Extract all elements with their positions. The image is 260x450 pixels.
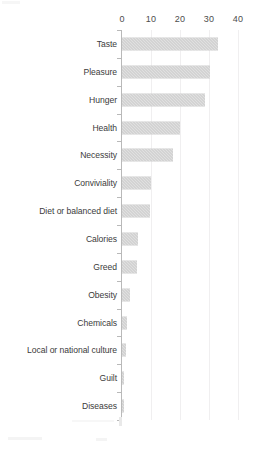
scan-artifact-b [96, 438, 107, 441]
y-axis-tick [117, 364, 121, 365]
y-axis-tick [117, 281, 121, 282]
category-label: Chemicals [77, 317, 117, 328]
bar [122, 232, 138, 245]
bar [122, 149, 173, 162]
bar [122, 344, 126, 357]
bar [122, 177, 151, 190]
y-axis-tick [117, 197, 121, 198]
category-label: Necessity [80, 150, 117, 161]
y-axis-tick [117, 30, 121, 31]
bar-row: Obesity [0, 281, 260, 309]
category-label: Pleasure [83, 66, 117, 77]
category-label: Diet or balanced diet [39, 206, 117, 217]
y-axis-tick [117, 114, 121, 115]
x-axis-tick-label: 20 [175, 13, 185, 25]
scan-artifact-d [119, 417, 122, 426]
bar-row: Health [0, 114, 260, 142]
category-label: Taste [97, 38, 117, 49]
bar-row: Greed [0, 253, 260, 281]
y-axis-tick [117, 58, 121, 59]
bar [122, 37, 218, 50]
bar-row: Conviviality [0, 169, 260, 197]
category-label: Hunger [89, 94, 117, 105]
bar [122, 121, 180, 134]
x-axis-tick-label: 0 [119, 13, 124, 25]
bar [122, 372, 124, 385]
y-axis-tick [117, 169, 121, 170]
bar-row: Local or national culture [0, 336, 260, 364]
x-axis-tick-label: 10 [146, 13, 156, 25]
y-axis-tick [117, 86, 121, 87]
horizontal-bar-chart: 010203040 TastePleasureHungerHealthNeces… [0, 0, 260, 450]
y-axis-tick [117, 225, 121, 226]
category-label: Local or national culture [27, 345, 117, 356]
y-axis-tick [117, 392, 121, 393]
bar-row: Necessity [0, 141, 260, 169]
bar-row: Hunger [0, 86, 260, 114]
category-label: Conviviality [74, 178, 117, 189]
bar [122, 93, 205, 106]
bar-row: Diet or balanced diet [0, 197, 260, 225]
category-label: Health [92, 122, 117, 133]
bar [122, 205, 150, 218]
y-axis-tick [117, 141, 121, 142]
scan-artifact-c [72, 420, 114, 422]
category-label: Guilt [100, 373, 117, 384]
bar [122, 316, 127, 329]
y-axis-tick [117, 253, 121, 254]
y-axis-tick [117, 336, 121, 337]
plot-area: TastePleasureHungerHealthNecessityConviv… [0, 30, 260, 420]
bar-row: Chemicals [0, 309, 260, 337]
scan-artifact-top [2, 1, 20, 4]
bar [122, 65, 210, 78]
bar-row: Pleasure [0, 58, 260, 86]
x-axis-ticks: 010203040 [0, 13, 260, 27]
x-axis-tick-label: 40 [233, 13, 243, 25]
bar [122, 288, 130, 301]
bar-row: Calories [0, 225, 260, 253]
bar [122, 260, 137, 273]
x-axis-tick-label: 30 [204, 13, 214, 25]
bar-row: Diseases [0, 392, 260, 420]
bar-row: Taste [0, 30, 260, 58]
scan-artifact-a [8, 437, 42, 440]
category-label: Obesity [88, 289, 117, 300]
category-label: Diseases [82, 401, 117, 412]
bar [122, 400, 124, 413]
category-label: Calories [86, 233, 117, 244]
y-axis-tick [117, 309, 121, 310]
bar-row: Guilt [0, 364, 260, 392]
category-label: Greed [93, 261, 117, 272]
